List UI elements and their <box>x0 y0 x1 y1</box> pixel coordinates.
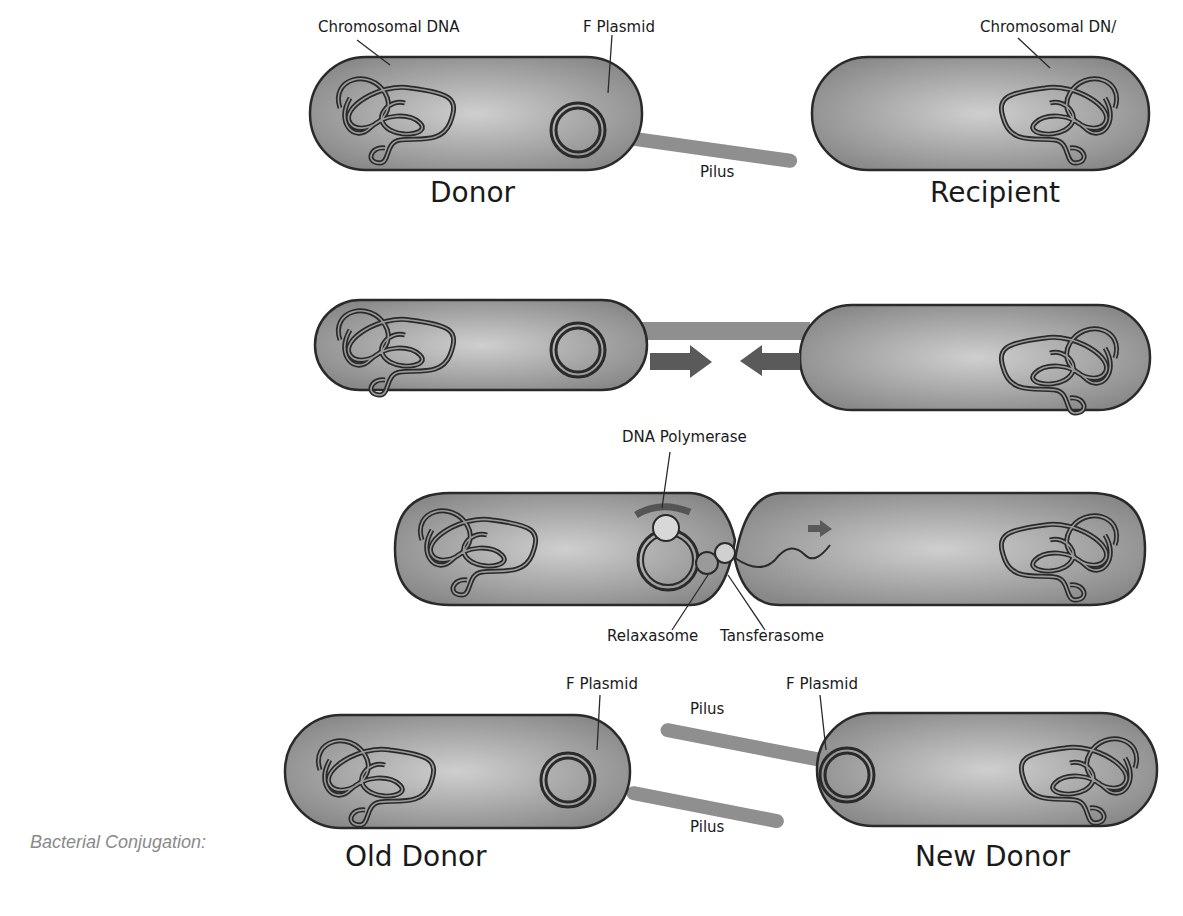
label-dna-polymerase: DNA Polymerase <box>622 428 747 446</box>
label-f-plasmid-old: F Plasmid <box>566 675 638 693</box>
label-transferasome: Tansferasome <box>720 627 824 645</box>
right-arrow-icon <box>650 345 712 378</box>
dna-polymerase <box>653 515 679 541</box>
pilus <box>630 322 810 340</box>
stage2 <box>315 300 1150 413</box>
label-relaxasome: Relaxasome <box>607 627 698 645</box>
label-pilus-top: Pilus <box>690 700 724 718</box>
left-arrow-icon <box>740 345 800 376</box>
transferasome <box>715 543 735 563</box>
label-f-plasmid-new: F Plasmid <box>786 675 858 693</box>
label-f-plasmid: F Plasmid <box>583 18 655 36</box>
old-donor-cell <box>285 715 630 828</box>
pilus <box>659 722 829 768</box>
label-pilus-bottom: Pilus <box>690 818 724 836</box>
label-recipient: Recipient <box>930 176 1060 209</box>
stage3 <box>395 452 1145 630</box>
diagram-canvas <box>0 0 1183 916</box>
stage1 <box>310 35 1149 170</box>
label-pilus: Pilus <box>700 163 734 181</box>
label-new-donor: New Donor <box>915 840 1070 873</box>
label-chromosomal-dna-right: Chromosomal DN/ <box>980 18 1116 36</box>
bacterial-conjugation-diagram: Chromosomal DNA F Plasmid Chromosomal DN… <box>0 0 1183 916</box>
recipient-cell <box>800 305 1150 410</box>
label-old-donor: Old Donor <box>345 840 487 873</box>
label-chromosomal-dna: Chromosomal DNA <box>318 18 460 36</box>
figure-caption: Bacterial Conjugation: <box>30 832 206 853</box>
recipient-cell <box>812 57 1149 170</box>
label-donor: Donor <box>430 176 515 209</box>
